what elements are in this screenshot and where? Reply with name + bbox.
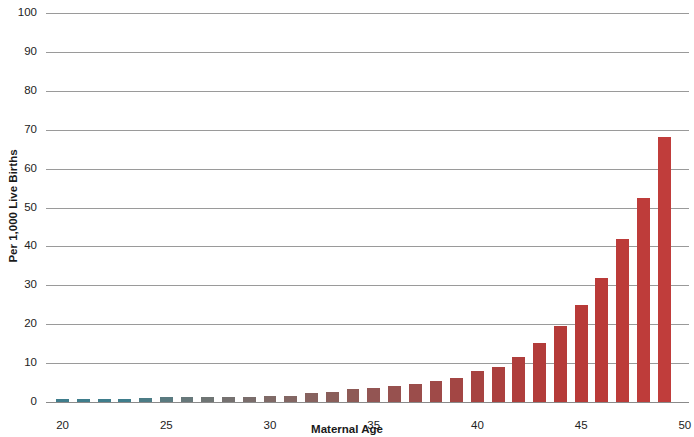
y-tick-label: 70 xyxy=(0,124,37,135)
bar xyxy=(658,137,671,402)
bar xyxy=(575,305,588,402)
bar xyxy=(160,397,173,402)
y-tick-label: 90 xyxy=(0,46,37,57)
plot-area: 0102030405060708090100 20253035404550 xyxy=(46,13,689,402)
bar xyxy=(98,399,111,402)
y-tick-label: 80 xyxy=(0,85,37,96)
y-tick-label: 20 xyxy=(0,318,37,329)
bar xyxy=(222,397,235,402)
bar xyxy=(264,396,277,402)
y-tick-label: 60 xyxy=(0,163,37,174)
bar xyxy=(554,326,567,402)
y-tick-label: 10 xyxy=(0,357,37,368)
gridline xyxy=(46,402,689,403)
y-axis-title-wrapper: Per 1,000 Live Births xyxy=(0,0,20,437)
bar xyxy=(347,389,360,402)
bar xyxy=(118,399,131,402)
bar xyxy=(616,239,629,402)
bar xyxy=(305,393,318,402)
y-tick-label: 100 xyxy=(0,7,37,18)
bar xyxy=(595,278,608,402)
bar xyxy=(637,198,650,402)
y-tick-label: 50 xyxy=(0,202,37,213)
bars-group xyxy=(46,13,689,402)
bar xyxy=(326,392,339,402)
x-axis-title: Maternal Age xyxy=(0,423,694,435)
y-tick-label: 0 xyxy=(0,396,37,407)
bar xyxy=(512,357,525,403)
bar xyxy=(201,397,214,402)
bar xyxy=(56,399,69,402)
bar xyxy=(388,386,401,402)
chart-container: Per 1,000 Live Births 010203040506070809… xyxy=(0,0,694,437)
y-tick-label: 30 xyxy=(0,279,37,290)
bar xyxy=(139,398,152,402)
bar xyxy=(77,399,90,402)
bar xyxy=(492,367,505,402)
bar xyxy=(284,396,297,402)
bar xyxy=(471,371,484,402)
bar xyxy=(181,397,194,402)
bar xyxy=(450,378,463,403)
bar xyxy=(367,388,380,402)
bar xyxy=(243,397,256,402)
bar xyxy=(409,384,422,402)
bar xyxy=(430,381,443,402)
bar xyxy=(533,343,546,402)
y-tick-label: 40 xyxy=(0,240,37,251)
